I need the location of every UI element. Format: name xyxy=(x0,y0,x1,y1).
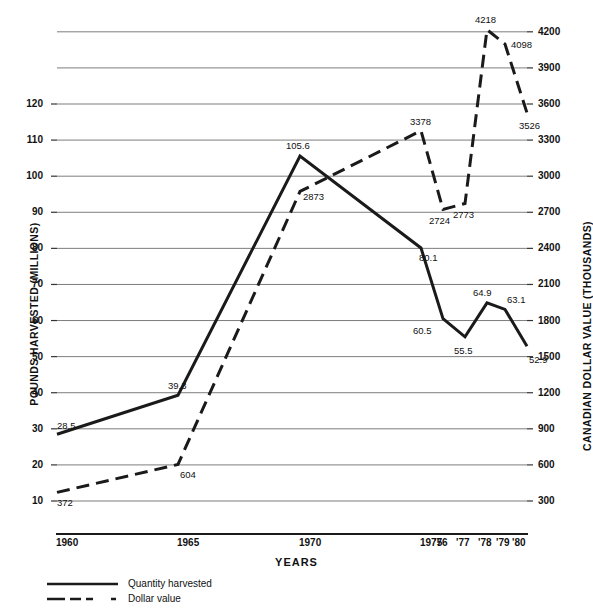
x-axis-tick-label: 1960 xyxy=(56,538,78,548)
y-axis-right-tick-label: 3600 xyxy=(538,99,578,109)
y-axis-left-tick-label: 20 xyxy=(9,460,43,470)
data-point-label: 372 xyxy=(57,498,73,508)
y-axis-right-tick-label: 4200 xyxy=(538,27,578,37)
y-axis-right-tick-label: 600 xyxy=(538,460,578,470)
x-axis-tick-label: '79 xyxy=(496,538,510,548)
y-axis-left-tick-label: 10 xyxy=(9,496,43,506)
plot-area xyxy=(0,0,593,610)
data-point-label: 28.5 xyxy=(57,421,76,431)
data-point-label: 63.1 xyxy=(507,295,526,305)
y-axis-right-title: CANADIAN DOLLAR VALUE (THOUSANDS) xyxy=(581,191,593,481)
data-point-label: 604 xyxy=(180,470,196,480)
data-point-label: 4218 xyxy=(475,15,496,25)
x-axis-tick-label: '80 xyxy=(512,538,526,548)
y-axis-right-tick-label: 300 xyxy=(538,496,578,506)
y-axis-right-tick-label: 3300 xyxy=(538,135,578,145)
y-axis-right-tick-label: 1800 xyxy=(538,316,578,326)
y-axis-left-title: POUNDS HARVESTED (MILLIONS) xyxy=(28,194,40,434)
x-axis-title: YEARS xyxy=(0,556,593,568)
series-line-dollar-value xyxy=(57,30,527,493)
x-axis-tick-label: '76 xyxy=(434,538,448,548)
data-point-label: 39.3 xyxy=(168,381,187,391)
legend-label-quantity-harvested: Quantity harvested xyxy=(128,578,212,589)
legend-item-quantity-harvested: Quantity harvested xyxy=(45,576,212,591)
y-axis-left-tick-label: 70 xyxy=(9,279,43,289)
legend-swatch-solid-icon xyxy=(45,578,120,590)
y-axis-left-tick-label: 80 xyxy=(9,243,43,253)
data-point-label: 52.9 xyxy=(529,355,548,365)
y-axis-right-tick-label: 3000 xyxy=(538,171,578,181)
x-axis-tick-label: '78 xyxy=(478,538,492,548)
legend-item-dollar-value: Dollar value xyxy=(45,591,212,606)
data-point-label: 2773 xyxy=(453,210,474,220)
y-axis-left-tick-label: 40 xyxy=(9,388,43,398)
legend-label-dollar-value: Dollar value xyxy=(128,593,181,604)
data-point-label: 2724 xyxy=(429,216,450,226)
data-point-label: 60.5 xyxy=(413,326,432,336)
data-point-label: 80.1 xyxy=(419,253,438,263)
y-axis-left-tick-label: 120 xyxy=(9,99,43,109)
data-point-label: 3378 xyxy=(410,117,431,127)
y-axis-right-tick-label: 3900 xyxy=(538,63,578,73)
data-point-label: 2873 xyxy=(303,192,324,202)
y-axis-right-tick-label: 1200 xyxy=(538,388,578,398)
data-point-label: 105.6 xyxy=(286,141,310,151)
y-axis-right-tick-label: 2400 xyxy=(538,243,578,253)
x-axis-tick-label: 1965 xyxy=(177,538,199,548)
data-point-label: 4098 xyxy=(511,40,532,50)
chart-legend: Quantity harvested Dollar value xyxy=(45,576,212,606)
chart-canvas: POUNDS HARVESTED (MILLIONS) CANADIAN DOL… xyxy=(0,0,593,610)
series-group xyxy=(57,30,527,493)
y-axis-left-tick-label: 30 xyxy=(9,424,43,434)
y-axis-left-tick-label: 110 xyxy=(9,135,43,145)
y-axis-right-tick-label: 2100 xyxy=(538,279,578,289)
y-axis-left-tick-label: 50 xyxy=(9,352,43,362)
data-point-label: 64.9 xyxy=(473,288,492,298)
y-axis-right-tick-label: 2700 xyxy=(538,207,578,217)
data-point-label: 55.5 xyxy=(454,346,473,356)
x-axis-tick-label: '77 xyxy=(456,538,470,548)
x-axis-tick-label: 1970 xyxy=(299,538,321,548)
y-axis-left-tick-label: 90 xyxy=(9,207,43,217)
legend-swatch-dashed-icon xyxy=(45,593,120,605)
gridlines-group xyxy=(51,32,533,501)
y-axis-left-tick-label: 60 xyxy=(9,316,43,326)
data-point-label: 3526 xyxy=(519,121,540,131)
y-axis-left-tick-label: 100 xyxy=(9,171,43,181)
y-axis-right-tick-label: 900 xyxy=(538,424,578,434)
